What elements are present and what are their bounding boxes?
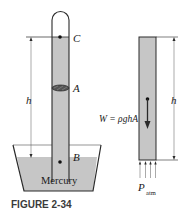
point-c-dot: [58, 35, 62, 39]
height-label-right: h: [171, 94, 177, 106]
point-b-label: B: [73, 151, 80, 163]
cross-section-a: [52, 85, 69, 91]
barometer-figure: C A B h Mercury W = ρghA h: [0, 0, 190, 212]
pressure-label: P: [137, 181, 145, 193]
height-label-left: h: [26, 94, 32, 106]
weight-label: W = ρghA: [99, 114, 138, 124]
pressure-subscript: atm: [146, 189, 156, 196]
pressure-arrows: [139, 161, 157, 178]
mercury-label: Mercury: [41, 175, 78, 186]
free-body-column: [139, 37, 156, 160]
point-a-label: A: [72, 82, 80, 94]
point-c-label: C: [73, 32, 81, 44]
point-b-dot: [58, 160, 62, 164]
figure-caption: FIGURE 2-34: [11, 199, 72, 210]
